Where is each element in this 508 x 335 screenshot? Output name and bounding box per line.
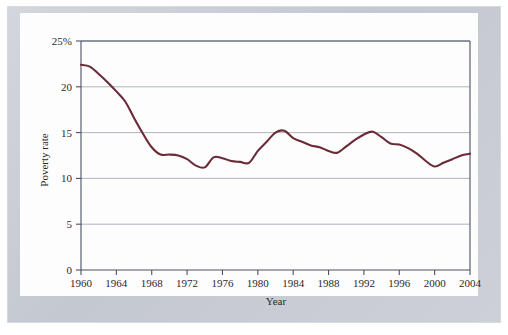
data-line-poverty-rate xyxy=(81,65,470,168)
x-tick-label-1964: 1964 xyxy=(105,277,128,289)
y-tick-label-10: 10 xyxy=(61,172,73,184)
x-tick-label-1988: 1988 xyxy=(318,277,341,289)
x-tick-label-2000: 2000 xyxy=(424,277,447,289)
y-tick-label-20: 20 xyxy=(61,81,73,93)
y-axis-ticks: 0510152025% xyxy=(52,35,81,276)
x-axis-ticks: 1960196419681972197619801984198819921996… xyxy=(70,270,482,289)
poverty-rate-chart-figure: 0510152025% 1960196419681972197619801984… xyxy=(0,0,508,335)
x-tick-label-1976: 1976 xyxy=(211,277,234,289)
x-tick-label-1980: 1980 xyxy=(247,277,270,289)
x-tick-label-1984: 1984 xyxy=(282,277,305,289)
y-tick-label-0: 0 xyxy=(67,264,73,276)
x-tick-label-1960: 1960 xyxy=(70,277,93,289)
x-tick-label-1968: 1968 xyxy=(141,277,164,289)
x-axis-title: Year xyxy=(266,295,287,307)
y-tick-label-5: 5 xyxy=(67,218,73,230)
x-tick-label-1996: 1996 xyxy=(388,277,411,289)
plot-frame xyxy=(81,41,470,270)
chart-canvas: 0510152025% 1960196419681972197619801984… xyxy=(0,0,508,335)
y-tick-label-15: 15 xyxy=(61,127,73,139)
x-tick-label-2004: 2004 xyxy=(459,277,482,289)
y-tick-label-25: 25% xyxy=(52,35,72,47)
poverty-rate-line xyxy=(81,65,470,168)
screenshot-root: 0510152025% 1960196419681972197619801984… xyxy=(0,0,508,335)
x-tick-label-1972: 1972 xyxy=(176,277,198,289)
y-axis-title: Poverty rate xyxy=(38,133,50,187)
x-tick-label-1992: 1992 xyxy=(353,277,375,289)
